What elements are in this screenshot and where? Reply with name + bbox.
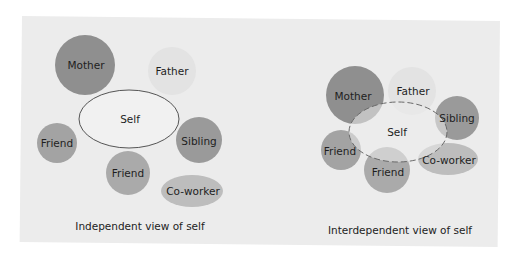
- coworker-label: Co-worker: [422, 154, 476, 166]
- sibling-label: Sibling: [181, 135, 216, 147]
- self-label: Self: [120, 113, 140, 125]
- independent-view: Mother Father Self Friend Sibling Friend…: [37, 35, 223, 232]
- friend-left-label: Friend: [41, 137, 73, 149]
- coworker-label: Co-worker: [166, 185, 220, 197]
- father-label: Father: [396, 85, 430, 97]
- friend-bottom-label: Friend: [112, 167, 144, 179]
- friend-left-label: Friend: [324, 145, 356, 157]
- self-label: Self: [387, 126, 407, 138]
- friend-bottom-label: Friend: [372, 166, 404, 178]
- interdependent-view: Mother Father Sibling Self Friend Co-wor…: [321, 66, 479, 236]
- sibling-label: Sibling: [439, 112, 474, 124]
- self-construal-diagram: Mother Father Self Friend Sibling Friend…: [0, 0, 517, 265]
- interdependent-caption: Interdependent view of self: [328, 224, 472, 236]
- father-label: Father: [155, 65, 189, 77]
- independent-caption: Independent view of self: [75, 220, 205, 232]
- mother-label: Mother: [334, 90, 372, 102]
- mother-label: Mother: [67, 59, 105, 71]
